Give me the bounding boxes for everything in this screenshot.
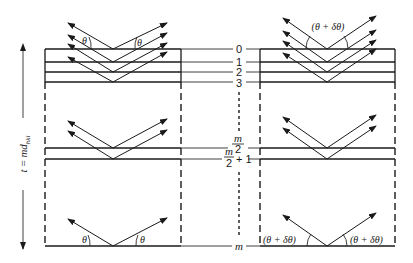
svg-text:m: m xyxy=(225,145,233,157)
angle-label: θ xyxy=(82,234,87,245)
right-mid-rays xyxy=(283,115,376,159)
plane-label-0: 0 xyxy=(236,43,242,55)
left-mid-rays xyxy=(68,119,167,159)
svg-text:t = mdhkl: t = mdhkl xyxy=(17,136,32,173)
angle-label: (θ + δθ) xyxy=(263,234,297,246)
angle-label: (θ + δθ) xyxy=(312,21,346,33)
angle-label: θ xyxy=(137,37,142,48)
angle-label: θ xyxy=(140,234,145,245)
left-top-rays xyxy=(68,23,167,82)
plane-label-m-half: m 2 xyxy=(232,132,244,155)
diffraction-diagram: t = mdhkl θ θ xyxy=(0,0,413,263)
angle-label: (θ + δθ) xyxy=(350,234,384,246)
plane-label-3: 3 xyxy=(236,77,242,89)
svg-text:2: 2 xyxy=(226,157,232,169)
thickness-label: t = mdhkl xyxy=(17,136,32,173)
angle-label: θ xyxy=(82,35,87,46)
plane-leaders xyxy=(181,49,260,246)
svg-text:+ 1: + 1 xyxy=(236,153,252,165)
plane-label-m: m xyxy=(235,240,243,252)
